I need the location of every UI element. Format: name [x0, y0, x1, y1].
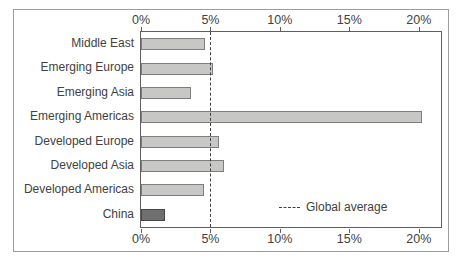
bar-middle-east [141, 38, 205, 50]
axis-tick-mark [349, 27, 350, 31]
axis-tick-mark [419, 27, 420, 31]
axis-tick-mark [141, 27, 142, 31]
bar-developed-europe [141, 136, 219, 148]
category-label-emerging-asia: Emerging Asia [0, 80, 134, 104]
category-label-emerging-europe: Emerging Europe [0, 55, 134, 79]
axis-tick-label-top: 15% [337, 13, 362, 28]
axis-tick-mark [349, 229, 350, 233]
bar-emerging-asia [141, 87, 191, 99]
category-label-middle-east: Middle East [0, 31, 134, 55]
axis-tick-label-top: 10% [267, 13, 292, 28]
axis-tick-label-bottom: 5% [201, 232, 219, 247]
axis-tick-mark [280, 27, 281, 31]
category-label-developed-americas: Developed Americas [0, 177, 134, 201]
axis-tick-mark [210, 27, 211, 31]
axis-tick-label-bottom: 15% [337, 232, 362, 247]
bar-developed-americas [141, 184, 204, 196]
global-average-line [210, 32, 211, 227]
axis-tick-label-bottom: 0% [132, 232, 150, 247]
axis-tick-mark [419, 229, 420, 233]
plot-area [140, 31, 442, 228]
axis-tick-label-bottom: 20% [406, 232, 431, 247]
bar-emerging-europe [141, 63, 213, 75]
axis-tick-mark [210, 229, 211, 233]
axis-tick-label-top: 0% [132, 13, 150, 28]
category-label-china: China [0, 202, 134, 226]
legend: Global average [279, 200, 387, 214]
chart-canvas: Global average Middle EastEmerging Europ… [0, 0, 460, 261]
category-label-developed-asia: Developed Asia [0, 153, 134, 177]
legend-label: Global average [306, 200, 387, 214]
bar-china [141, 209, 165, 221]
dashed-line-swatch-icon [279, 207, 300, 208]
axis-tick-mark [141, 229, 142, 233]
category-label-emerging-americas: Emerging Americas [0, 104, 134, 128]
category-label-developed-europe: Developed Europe [0, 129, 134, 153]
bar-developed-asia [141, 160, 224, 172]
axis-tick-label-top: 20% [406, 13, 431, 28]
axis-tick-label-top: 5% [201, 13, 219, 28]
axis-tick-mark [280, 229, 281, 233]
bar-emerging-americas [141, 111, 422, 123]
axis-tick-label-bottom: 10% [267, 232, 292, 247]
